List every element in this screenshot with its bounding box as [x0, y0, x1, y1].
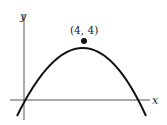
parabola-curve: [17, 48, 146, 116]
vertex-point: [81, 38, 87, 44]
x-axis-label: x: [152, 94, 159, 107]
vertex-label: (4, 4): [70, 24, 98, 36]
parabola-graph: y x (4, 4): [0, 0, 167, 125]
y-axis-label: y: [19, 10, 27, 23]
